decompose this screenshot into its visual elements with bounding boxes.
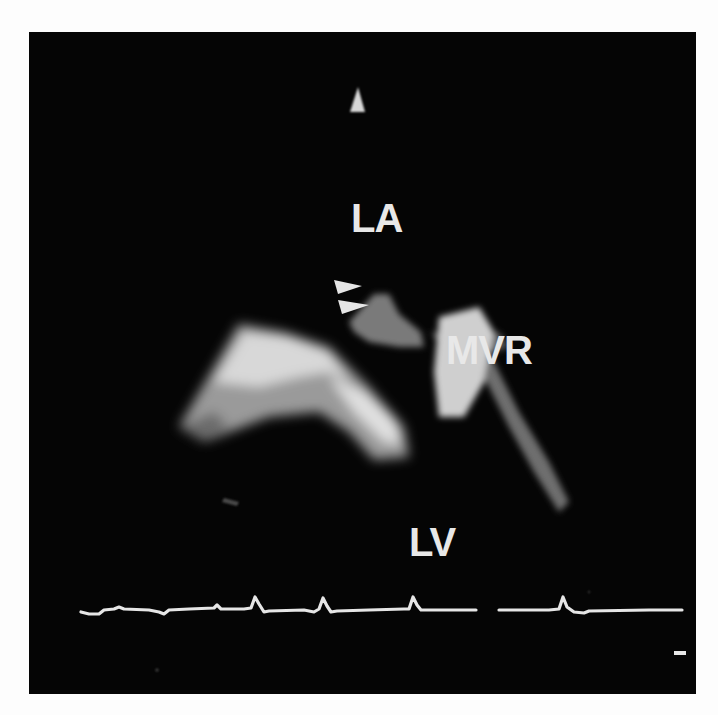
ecg-trace xyxy=(81,597,682,614)
echo-tissue-left xyxy=(179,324,409,460)
echo-image-panel: LA MVR LV xyxy=(29,32,696,694)
label-mitral-valve-replacement: MVR xyxy=(446,328,532,373)
label-left-ventricle: LV xyxy=(409,520,455,565)
label-left-atrium: LA xyxy=(351,196,402,241)
scale-bar-icon xyxy=(674,651,686,655)
orientation-marker-icon xyxy=(350,87,365,112)
echo-scan-graphic xyxy=(29,32,696,694)
arrowhead-icon xyxy=(334,280,362,294)
echo-speckle xyxy=(156,498,591,672)
